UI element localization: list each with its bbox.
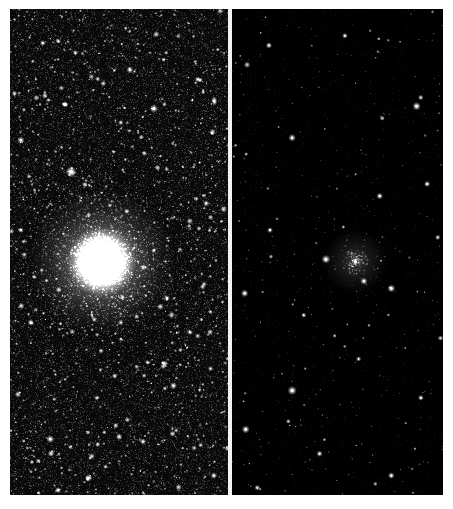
figure-root: Deep exposure Shallow exposure xyxy=(0,0,453,509)
star-field-canvas-left xyxy=(10,9,228,495)
panel-right-shallow-exposure[interactable] xyxy=(232,9,443,495)
panel-left-deep-exposure[interactable] xyxy=(10,9,228,495)
star-field-canvas-right xyxy=(232,9,443,495)
